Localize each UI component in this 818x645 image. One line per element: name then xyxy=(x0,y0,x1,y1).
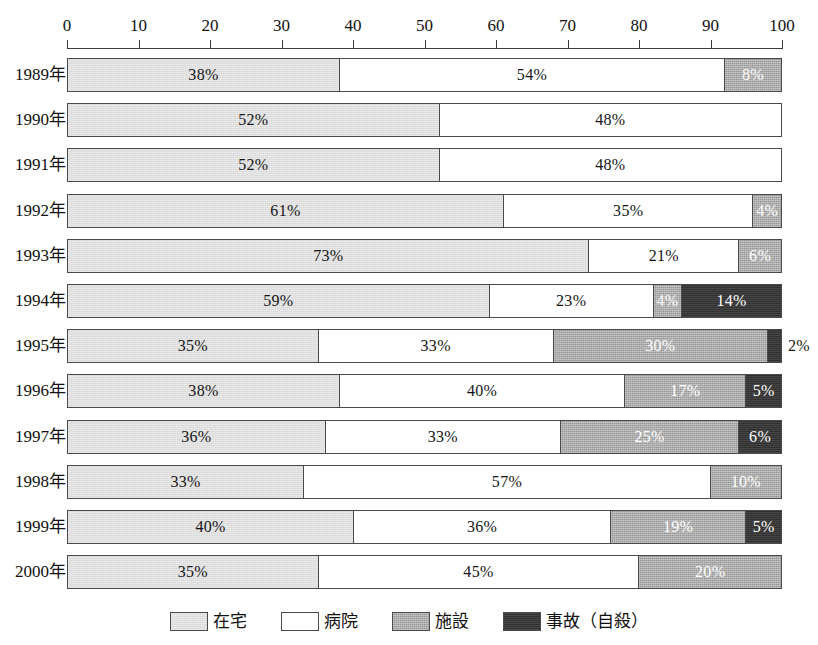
bar-segment-facility: 20% xyxy=(638,556,781,588)
data-label: 4% xyxy=(656,293,678,309)
data-label: 33% xyxy=(421,338,451,354)
data-label: 10% xyxy=(731,474,761,490)
stacked-bar: 40%36%19%5% xyxy=(67,510,782,544)
data-label: 6% xyxy=(749,429,771,445)
bar-segment-facility: 30% xyxy=(553,330,767,362)
stacked-bar-chart: 0102030405060708090100 1989年38%54%8%1990… xyxy=(0,0,818,645)
stacked-bar: 38%54%8% xyxy=(67,58,782,92)
bar-segment-facility: 4% xyxy=(653,285,682,317)
x-axis-tick-mark xyxy=(282,40,283,49)
bar-segment-accident: 5% xyxy=(745,511,781,543)
x-axis-tick-mark xyxy=(67,40,68,49)
data-label: 48% xyxy=(595,157,625,173)
y-axis-category-label: 1998年 xyxy=(15,465,66,499)
data-label: 45% xyxy=(463,564,493,580)
bar-segment-home: 52% xyxy=(68,149,439,181)
x-axis-tick-label: 0 xyxy=(63,16,72,36)
data-label: 73% xyxy=(313,248,343,264)
data-label: 48% xyxy=(595,112,625,128)
bar-segment-facility: 10% xyxy=(710,466,781,498)
x-axis-tick-mark xyxy=(425,40,426,49)
x-axis-tick-mark xyxy=(210,40,211,49)
bar-segment-hospital: 33% xyxy=(325,421,560,453)
data-label: 57% xyxy=(492,474,522,490)
stacked-bar: 73%21%6% xyxy=(67,239,782,273)
bar-segment-facility: 6% xyxy=(738,240,781,272)
y-axis-category-label: 1991年 xyxy=(15,148,66,182)
data-label: 25% xyxy=(634,429,664,445)
data-label: 33% xyxy=(428,429,458,445)
legend-label: 在宅 xyxy=(213,612,247,631)
plot-area: 1989年38%54%8%1990年52%48%1991年52%48%1992年… xyxy=(0,56,818,596)
data-label: 14% xyxy=(716,293,746,309)
bar-row: 1998年33%57%10% xyxy=(0,465,818,509)
data-label: 38% xyxy=(188,383,218,399)
bar-segment-accident: 2% xyxy=(767,330,781,362)
legend-item-home[interactable]: 在宅 xyxy=(170,612,247,631)
x-axis-tick-mark xyxy=(639,40,640,49)
bar-segment-accident: 5% xyxy=(745,375,781,407)
data-label: 20% xyxy=(695,564,725,580)
data-label: 5% xyxy=(753,519,775,535)
data-label: 35% xyxy=(178,564,208,580)
bar-segment-home: 33% xyxy=(68,466,303,498)
data-label: 54% xyxy=(517,67,547,83)
y-axis-category-label: 2000年 xyxy=(15,555,66,589)
data-label: 38% xyxy=(188,67,218,83)
x-axis-tick-label: 90 xyxy=(702,16,719,36)
data-label: 40% xyxy=(195,519,225,535)
data-label: 61% xyxy=(270,203,300,219)
stacked-bar: 35%33%30%2% xyxy=(67,329,782,363)
data-label: 35% xyxy=(613,203,643,219)
x-axis-tick-label: 100 xyxy=(769,16,795,36)
bar-row: 1994年59%23%4%14% xyxy=(0,284,818,328)
bar-segment-facility: 25% xyxy=(560,421,738,453)
bar-segment-hospital: 54% xyxy=(339,59,724,91)
x-axis-tick-label: 30 xyxy=(273,16,290,36)
y-axis-category-label: 1993年 xyxy=(15,239,66,273)
bar-segment-home: 38% xyxy=(68,375,339,407)
bar-row: 1992年61%35%4% xyxy=(0,194,818,238)
legend-item-facility[interactable]: 施設 xyxy=(392,612,469,631)
bar-row: 1989年38%54%8% xyxy=(0,58,818,102)
y-axis-category-label: 1996年 xyxy=(15,374,66,408)
bar-row: 1995年35%33%30%2% xyxy=(0,329,818,373)
bar-segment-home: 61% xyxy=(68,195,503,227)
y-axis-category-label: 1994年 xyxy=(15,284,66,318)
legend-item-hospital[interactable]: 病院 xyxy=(281,612,358,631)
bar-segment-hospital: 36% xyxy=(353,511,610,543)
bar-row: 1996年38%40%17%5% xyxy=(0,374,818,418)
bar-segment-hospital: 48% xyxy=(439,104,781,136)
stacked-bar: 61%35%4% xyxy=(67,194,782,228)
data-label: 6% xyxy=(749,248,771,264)
x-axis-tick-label: 80 xyxy=(631,16,648,36)
stacked-bar: 52%48% xyxy=(67,148,782,182)
x-axis-tick-mark xyxy=(139,40,140,49)
legend-label: 事故（自殺） xyxy=(546,612,648,631)
data-label: 8% xyxy=(742,67,764,83)
x-axis-tick-mark xyxy=(711,40,712,49)
x-axis-tick-label: 50 xyxy=(416,16,433,36)
bar-row: 1990年52%48% xyxy=(0,103,818,147)
bar-segment-accident: 14% xyxy=(681,285,781,317)
stacked-bar: 35%45%20% xyxy=(67,555,782,589)
data-label: 21% xyxy=(649,248,679,264)
legend-label: 病院 xyxy=(324,612,358,631)
legend-item-accident[interactable]: 事故（自殺） xyxy=(503,612,648,631)
bar-segment-hospital: 35% xyxy=(503,195,753,227)
bar-segment-hospital: 57% xyxy=(303,466,709,498)
bar-segment-home: 52% xyxy=(68,104,439,136)
x-axis-tick-label: 10 xyxy=(130,16,147,36)
data-label: 36% xyxy=(181,429,211,445)
bar-segment-facility: 8% xyxy=(724,59,781,91)
x-axis-tick-label: 60 xyxy=(488,16,505,36)
data-label: 5% xyxy=(753,383,775,399)
legend-label: 施設 xyxy=(435,612,469,631)
data-label: 4% xyxy=(756,203,778,219)
x-axis-tick-label: 70 xyxy=(559,16,576,36)
legend-swatch-icon xyxy=(170,612,208,631)
bar-segment-home: 40% xyxy=(68,511,353,543)
bar-row: 1999年40%36%19%5% xyxy=(0,510,818,554)
legend-swatch-icon xyxy=(392,612,430,631)
bar-segment-hospital: 33% xyxy=(318,330,553,362)
